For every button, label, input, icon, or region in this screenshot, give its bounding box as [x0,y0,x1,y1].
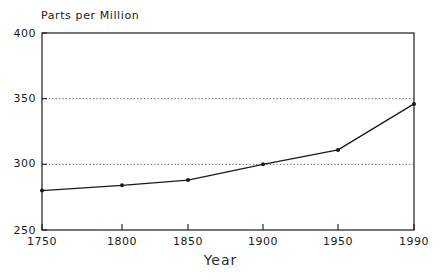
co2-line-chart: Parts per Million 400 350 300 250 1750 1… [0,0,441,280]
data-point-1990 [412,102,416,106]
plot-frame [42,33,414,230]
data-point-1750 [40,189,44,193]
plot-area [0,0,441,280]
data-point-1850 [186,178,190,182]
data-point-1950 [336,148,340,152]
data-point-1900 [261,162,265,166]
data-point-1800 [120,183,124,187]
